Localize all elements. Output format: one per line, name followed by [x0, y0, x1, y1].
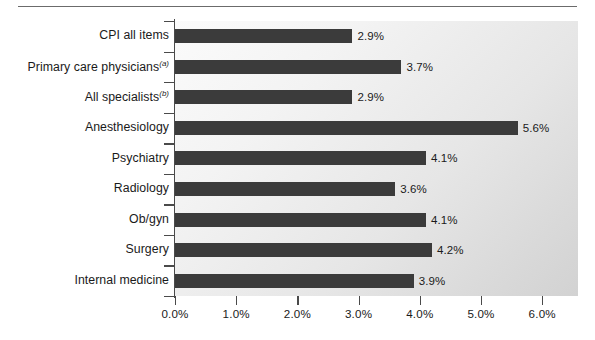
y-axis-tick	[164, 265, 175, 266]
bar-row: 4.1%	[175, 204, 595, 235]
x-axis-tick	[481, 296, 482, 305]
bar-row: 4.1%	[175, 143, 595, 174]
x-axis-tick	[297, 296, 298, 305]
category-label: Psychiatry	[0, 151, 169, 165]
y-axis-tick	[164, 143, 175, 144]
x-axis-tick-label: 3.0%	[345, 307, 372, 320]
bar	[175, 274, 414, 288]
x-axis-tick	[542, 296, 543, 305]
y-axis-tick	[164, 296, 175, 297]
bar-value-label: 4.2%	[437, 244, 464, 256]
x-axis-tick-label: 2.0%	[284, 307, 311, 320]
bar	[175, 60, 401, 74]
bar-row: 2.9%	[175, 21, 595, 52]
x-axis-tick-label: 4.0%	[406, 307, 433, 320]
x-axis-tick-label: 0.0%	[161, 307, 188, 320]
category-label: All specialists(b)	[0, 89, 169, 104]
bar	[175, 29, 352, 43]
bar	[175, 151, 426, 165]
footnote-marker: (b)	[159, 89, 169, 98]
y-axis-tick	[164, 82, 175, 83]
y-axis-tick	[164, 113, 175, 114]
y-axis-tick	[164, 174, 175, 175]
bar-value-label: 5.6%	[523, 122, 550, 134]
bar-row: 3.6%	[175, 174, 595, 205]
category-label: Internal medicine	[0, 273, 169, 287]
y-axis-tick	[164, 204, 175, 205]
bar-row: 3.7%	[175, 52, 595, 83]
bar-row: 4.2%	[175, 235, 595, 266]
y-axis-tick	[164, 21, 175, 22]
x-axis-tick	[236, 296, 237, 305]
bar-value-label: 3.9%	[419, 275, 446, 287]
x-axis-tick-label: 5.0%	[467, 307, 494, 320]
x-axis-tick-label: 1.0%	[223, 307, 250, 320]
bar	[175, 90, 352, 104]
bar-value-label: 2.9%	[357, 30, 384, 42]
bar	[175, 213, 426, 227]
bar-value-label: 4.1%	[431, 152, 458, 164]
top-divider-rule	[18, 6, 577, 7]
bar	[175, 243, 432, 257]
footnote-marker: (a)	[159, 59, 169, 68]
bar-value-label: 4.1%	[431, 214, 458, 226]
bar-row: 5.6%	[175, 113, 595, 144]
x-axis-tick	[420, 296, 421, 305]
category-label: Primary care physicians(a)	[0, 59, 169, 74]
y-axis-tick	[164, 52, 175, 53]
category-label: Radiology	[0, 181, 169, 195]
x-axis-tick	[175, 296, 176, 305]
x-axis-tick-label: 6.0%	[529, 307, 556, 320]
bar-value-label: 3.6%	[400, 183, 427, 195]
category-label: Ob/gyn	[0, 212, 169, 226]
category-label: Surgery	[0, 242, 169, 256]
bar	[175, 121, 518, 135]
chart-figure: 2.9%3.7%2.9%5.6%4.1%3.6%4.1%4.2%3.9% CPI…	[0, 0, 595, 340]
category-label: CPI all items	[0, 28, 169, 42]
category-label: Anesthesiology	[0, 120, 169, 134]
bar-value-label: 2.9%	[357, 91, 384, 103]
bar-value-label: 3.7%	[406, 61, 433, 73]
x-axis-tick	[359, 296, 360, 305]
bar-row: 2.9%	[175, 82, 595, 113]
bar	[175, 182, 395, 196]
y-axis-tick	[164, 235, 175, 236]
bar-row: 3.9%	[175, 265, 595, 296]
